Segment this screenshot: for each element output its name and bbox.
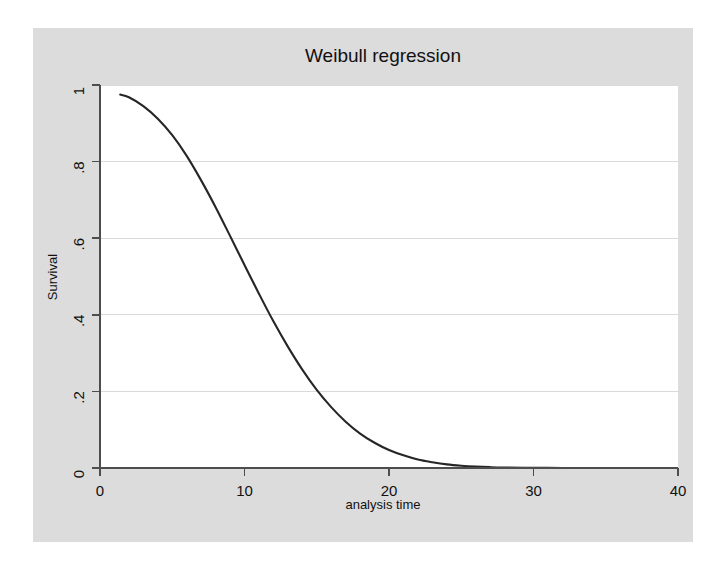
y-axis-label: Survival: [45, 254, 60, 300]
y-axis-tick-labels: 0.2.4.6.81: [70, 87, 87, 478]
y-axis-ticks: [92, 85, 100, 468]
x-tick-label: 0: [96, 482, 104, 499]
x-tick-label: 10: [236, 482, 253, 499]
x-axis-ticks: [100, 468, 678, 476]
x-tick-label: 30: [525, 482, 542, 499]
y-tick-label: .2: [70, 391, 87, 404]
y-tick-label: .6: [70, 238, 87, 251]
y-tick-label: 1: [70, 87, 87, 95]
chart-title: Weibull regression: [305, 45, 461, 66]
plot-area: [100, 85, 678, 468]
x-axis-label: analysis time: [345, 497, 420, 512]
y-tick-label: .4: [70, 315, 87, 328]
weibull-regression-chart: 0.2.4.6.81 010203040 Weibull regression …: [0, 0, 721, 562]
x-tick-label: 40: [670, 482, 687, 499]
y-tick-label: .8: [70, 161, 87, 174]
y-tick-label: 0: [70, 470, 87, 478]
